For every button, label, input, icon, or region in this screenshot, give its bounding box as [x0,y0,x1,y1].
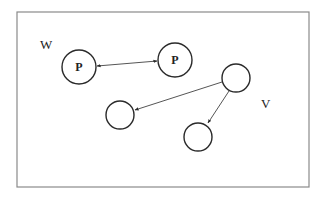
node-target-left [106,101,134,129]
region-label-v: V [261,96,271,111]
node-p1-label: P [75,60,82,74]
node-target-bottom [184,123,212,151]
node-source [222,64,250,92]
diagram-canvas: W V P P [0,0,326,199]
node-p2-label: P [171,53,178,67]
node-p2: P [158,43,192,77]
node-p1: P [62,50,96,84]
edge-p1-p2-bidirectional-arrow [97,61,157,66]
edge-source-to-bottom-arrow [208,91,229,123]
edge-source-to-left-arrow [135,82,222,110]
region-label-w: W [40,37,53,52]
